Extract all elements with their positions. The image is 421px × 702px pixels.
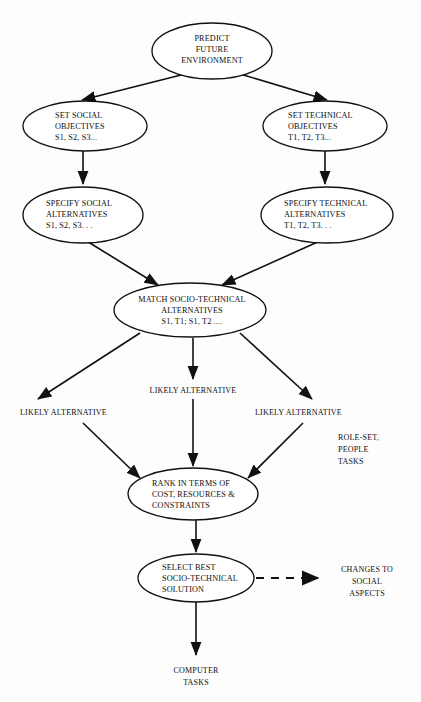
label-likely-alternative-middle: LIKELY ALTERNATIVE (150, 386, 237, 395)
label-line: TASKS (338, 457, 364, 466)
node-label-line: SOLUTION (162, 585, 204, 594)
label-line: TASKS (183, 678, 209, 687)
label-line: LIKELY ALTERNATIVE (255, 408, 342, 417)
node-label-line: RANK IN TERMS OF (152, 479, 230, 488)
node-select-best-socio-technical-solution[interactable]: SELECT BEST SOCIO-TECHNICAL SOLUTION (138, 554, 254, 602)
label-line: CHANGES TO (341, 565, 393, 574)
node-label-line: SOCIO-TECHNICAL (162, 574, 238, 583)
label-computer-tasks: COMPUTER TASKS (173, 666, 219, 687)
label-likely-alternative-left: LIKELY ALTERNATIVE (20, 408, 107, 417)
node-label-line: T1, T2, T3. . . (284, 221, 332, 230)
node-label-line: MATCH SOCIO-TECHNICAL (138, 295, 246, 304)
node-label-line: S1, S2, S3... (55, 133, 97, 142)
node-rank-in-terms-of[interactable]: RANK IN TERMS OF COST, RESOURCES & CONST… (128, 468, 258, 520)
edge-likely-right-to-rank (248, 423, 303, 478)
node-label-line: S1, T1; S1, T2 .... (162, 317, 223, 326)
diagram-canvas: PREDICT FUTURE ENVIRONMENT SET SOCIAL OB… (0, 0, 421, 702)
node-set-technical-objectives[interactable]: SET TECHNICAL OBJECTIVES T1, T2, T3... (263, 101, 387, 151)
flowchart-svg: PREDICT FUTURE ENVIRONMENT SET SOCIAL OB… (0, 0, 421, 702)
node-label-line: ALTERNATIVES (161, 306, 223, 315)
node-label-line: SET SOCIAL (55, 111, 103, 120)
label-line: COMPUTER (173, 666, 219, 675)
label-line: SOCIAL (352, 577, 382, 586)
label-line: ROLE-SET, (338, 433, 379, 442)
node-specify-technical-alternatives[interactable]: SPECIFY TECHNICAL ALTERNATIVES T1, T2, T… (261, 187, 393, 243)
label-line: ASPECTS (349, 589, 385, 598)
node-label-line: SELECT BEST (162, 563, 216, 572)
node-label-line: OBJECTIVES (288, 122, 338, 131)
label-changes-to-social-aspects: CHANGES TO SOCIAL ASPECTS (341, 565, 393, 598)
node-label-line: CONSTRAINTS (152, 501, 210, 510)
label-role-set-people-tasks: ROLE-SET, PEOPLE TASKS (338, 433, 379, 466)
node-label-line: SPECIFY TECHNICAL (284, 199, 367, 208)
node-label-line: OBJECTIVES (55, 122, 105, 131)
node-specify-social-alternatives[interactable]: SPECIFY SOCIAL ALTERNATIVES S1, S2, S3. … (23, 187, 143, 243)
node-layer: PREDICT FUTURE ENVIRONMENT SET SOCIAL OB… (23, 23, 393, 602)
edge-likely-left-to-rank (83, 423, 140, 478)
node-set-social-objectives[interactable]: SET SOCIAL OBJECTIVES S1, S2, S3... (23, 101, 147, 151)
node-predict-future-environment[interactable]: PREDICT FUTURE ENVIRONMENT (152, 23, 272, 79)
label-layer: LIKELY ALTERNATIVE LIKELY ALTERNATIVE LI… (20, 386, 393, 687)
edge-predict-to-set-social (82, 74, 185, 100)
label-line: PEOPLE (338, 445, 369, 454)
edge-match-to-likely-right (240, 333, 312, 399)
node-label-line: T1, T2, T3... (288, 133, 331, 142)
node-label-line: FUTURE (196, 45, 229, 54)
edge-match-to-likely-left (38, 333, 140, 399)
edge-specify-technical-to-match (222, 240, 322, 285)
node-label-line: ALTERNATIVES (46, 210, 108, 219)
edge-predict-to-set-technical (240, 74, 327, 100)
label-line: LIKELY ALTERNATIVE (150, 386, 237, 395)
label-line: LIKELY ALTERNATIVE (20, 408, 107, 417)
node-label-line: ALTERNATIVES (284, 210, 346, 219)
node-label-line: PREDICT (194, 34, 229, 43)
label-likely-alternative-right: LIKELY ALTERNATIVE (255, 408, 342, 417)
node-label-line: ENVIRONMENT (181, 56, 243, 65)
node-label-line: SPECIFY SOCIAL (46, 199, 112, 208)
edge-specify-social-to-match (85, 240, 158, 285)
node-label-line: SET TECHNICAL (288, 111, 353, 120)
node-label-line: COST, RESOURCES & (152, 490, 235, 499)
node-label-line: S1, S2, S3. . . (46, 221, 93, 230)
node-match-socio-technical-alternatives[interactable]: MATCH SOCIO-TECHNICAL ALTERNATIVES S1, T… (114, 283, 266, 337)
